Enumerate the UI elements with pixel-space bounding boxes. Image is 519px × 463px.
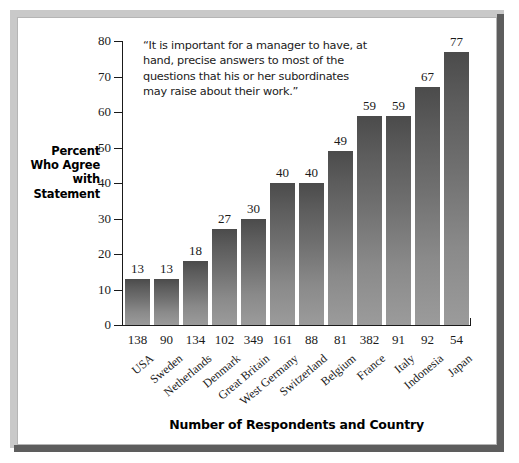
y-axis-tick (114, 254, 122, 255)
bar-group: 77 (442, 41, 471, 325)
respondent-count-label: 102 (210, 333, 239, 346)
bar-value-label: 40 (297, 166, 326, 179)
y-axis-tick-label: 80 (71, 34, 111, 47)
y-axis-tick (114, 77, 122, 78)
bar-value-label: 67 (413, 70, 442, 83)
country-label: Japan (446, 352, 475, 379)
bar (444, 52, 469, 325)
y-axis-tick (114, 183, 122, 184)
respondent-count-label: 91 (384, 333, 413, 346)
chart-figure: Percent Who Agree with Statement 0102030… (0, 0, 519, 463)
respondent-count-label: 349 (239, 333, 268, 346)
bar (386, 116, 411, 325)
respondent-count-label: 90 (152, 333, 181, 346)
bar (415, 87, 440, 325)
respondent-count-label: 161 (268, 333, 297, 346)
bar-group: 67 (413, 41, 442, 325)
bar-value-label: 30 (239, 202, 268, 215)
y-axis-tick-label: 40 (71, 176, 111, 189)
y-axis-tick-label: 10 (71, 283, 111, 296)
respondent-count-label: 382 (355, 333, 384, 346)
bar (357, 116, 382, 325)
respondent-count-label: 54 (442, 333, 471, 346)
y-axis-tick (114, 290, 122, 291)
y-axis-tick (114, 219, 122, 220)
respondent-count-label: 134 (181, 333, 210, 346)
respondent-count-label: 138 (123, 333, 152, 346)
respondent-count-label: 92 (413, 333, 442, 346)
bar (125, 279, 150, 325)
x-axis-line (122, 325, 471, 326)
bar-value-label: 27 (210, 212, 239, 225)
bar-value-label: 40 (268, 166, 297, 179)
bar (183, 261, 208, 325)
bar (241, 219, 266, 326)
country-label: France (355, 352, 388, 382)
bar-value-label: 77 (442, 35, 471, 48)
y-axis-tick (114, 325, 122, 326)
bar (212, 229, 237, 325)
y-axis-tick (114, 112, 122, 113)
respondent-count-label: 81 (326, 333, 355, 346)
y-axis-tick-label: 50 (71, 141, 111, 154)
x-axis-title: Number of Respondents and Country (122, 417, 471, 432)
y-axis-tick (114, 41, 122, 42)
bar-value-label: 59 (355, 99, 384, 112)
y-axis-tick-label: 60 (71, 105, 111, 118)
plot-area: Percent Who Agree with Statement 0102030… (0, 0, 519, 463)
bar-value-label: 49 (326, 134, 355, 147)
bar (328, 151, 353, 325)
chart-annotation-quote: “It is important for a manager to have, … (143, 38, 375, 100)
bar-value-label: 18 (181, 244, 210, 257)
y-axis-tick-label: 30 (71, 212, 111, 225)
y-axis-tick-label: 0 (71, 318, 111, 331)
y-axis-tick-label: 70 (71, 70, 111, 83)
respondent-count-label: 88 (297, 333, 326, 346)
bar (154, 279, 179, 325)
bar-value-label: 59 (384, 99, 413, 112)
y-axis-tick (114, 148, 122, 149)
bar-value-label: 13 (152, 262, 181, 275)
bar (270, 183, 295, 325)
bar-group: 59 (384, 41, 413, 325)
y-axis-tick-label: 20 (71, 247, 111, 260)
bar-value-label: 13 (123, 262, 152, 275)
bar (299, 183, 324, 325)
